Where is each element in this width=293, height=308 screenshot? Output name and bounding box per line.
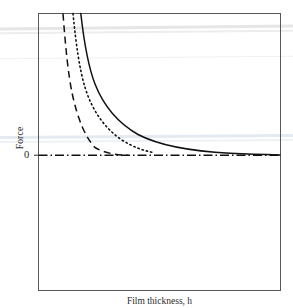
- x-axis-label: Film thickness, h: [38, 296, 281, 306]
- force-vs-film-thickness-figure: Force 0 Film thickness, h: [0, 0, 293, 308]
- curves-layer: [0, 0, 293, 308]
- solid-curve: [81, 14, 280, 155]
- y-axis-zero-tick-label: 0: [24, 148, 29, 161]
